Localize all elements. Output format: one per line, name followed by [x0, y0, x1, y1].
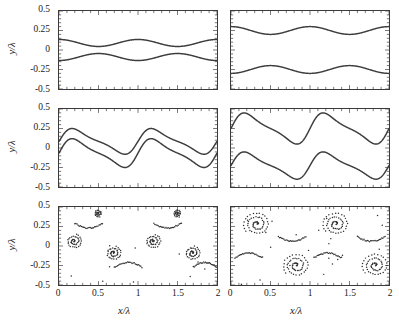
axis-ticks: [231, 109, 389, 187]
braid-filament: [74, 223, 103, 229]
y-tick-label: -0.5: [35, 85, 50, 95]
stray-particles: [71, 245, 206, 283]
lower-interface: [231, 152, 389, 179]
y-tick-label: 0: [45, 143, 50, 153]
x-tick-label: 1.5: [172, 289, 184, 299]
vortex-spiral: [186, 245, 201, 260]
x-tick-label: 1: [136, 289, 141, 299]
axis-ticks: [59, 109, 217, 187]
panel-row2-right: [230, 108, 390, 188]
x-tick-label: 0.5: [92, 289, 104, 299]
x-tick-labels-right: 00.511.52: [230, 289, 390, 302]
braid-filament: [193, 261, 217, 268]
plot-row1-right: [231, 11, 389, 89]
vortex-spiral: [95, 210, 102, 218]
plot-row3-left: [59, 207, 217, 285]
plot-row2-left: [59, 109, 217, 187]
x-tick-label: 2: [216, 289, 221, 299]
vortex-spiral: [361, 253, 387, 275]
panel-row1-right: [230, 10, 390, 90]
y-axis-title-row2: y/λ: [6, 127, 17, 167]
y-tick-label: -0.25: [30, 65, 50, 75]
vortex-spiral: [283, 254, 309, 276]
panel-row2-left: [58, 108, 218, 188]
x-tick-label: 1: [308, 289, 313, 299]
x-axis-title-left: x/λ: [118, 305, 130, 316]
y-tick-label: 0: [45, 45, 50, 55]
vortex-spiral: [67, 233, 82, 248]
x-tick-label: 0.5: [264, 289, 276, 299]
y-tick-label: 0.25: [33, 123, 50, 133]
braid-filament: [114, 261, 143, 268]
x-tick-labels-left: 00.511.52: [58, 289, 218, 302]
upper-interface: [231, 113, 389, 144]
braid-filament: [313, 252, 342, 259]
lower-interface: [59, 139, 217, 168]
y-axis-title-row3: y/λ: [6, 225, 17, 265]
vortex-spiral: [146, 234, 161, 248]
vortex-spiral: [173, 209, 181, 217]
y-tick-label: 0.25: [33, 25, 50, 35]
lower-interface: [231, 66, 389, 74]
axis-ticks: [59, 207, 217, 285]
y-tick-label: 0.5: [38, 5, 50, 15]
panel-row1-left: [58, 10, 218, 90]
vortex-spiral: [322, 212, 348, 233]
stray-particles: [241, 207, 383, 285]
braid-filament: [278, 236, 307, 242]
x-tick-label: 1.5: [344, 289, 356, 299]
plot-row1-left: [59, 11, 217, 89]
figure-root: 0.50.250-0.25-0.5 y/λ 0.50.250-0.25-0.5 …: [0, 0, 399, 330]
y-tick-label: 0: [45, 241, 50, 251]
lower-interface: [59, 54, 217, 61]
x-tick-label: 0: [56, 289, 61, 299]
upper-interface: [231, 27, 389, 35]
plot-row3-right: [231, 207, 389, 285]
plot-row2-right: [231, 109, 389, 187]
panel-row3-right: [230, 206, 390, 286]
x-axis-title-right: x/λ: [290, 305, 302, 316]
vortex-spiral: [107, 245, 122, 259]
upper-interface: [59, 39, 217, 46]
axis-ticks: [59, 11, 217, 89]
braid-filament: [153, 222, 182, 229]
braid-filament: [357, 235, 386, 242]
y-tick-label: -0.25: [30, 261, 50, 271]
y-tick-label: -0.5: [35, 183, 50, 193]
y-tick-label: 0.5: [38, 103, 50, 113]
vortex-spiral: [243, 213, 269, 234]
panel-row3-left: [58, 206, 218, 286]
x-tick-label: 0: [228, 289, 233, 299]
y-tick-label: -0.5: [35, 281, 50, 291]
x-tick-label: 2: [388, 289, 393, 299]
y-axis-title-row1: y/λ: [6, 29, 17, 69]
y-tick-label: -0.25: [30, 163, 50, 173]
braid-filament: [234, 252, 263, 259]
axis-ticks: [231, 11, 389, 89]
y-tick-label: 0.25: [33, 221, 50, 231]
y-tick-label: 0.5: [38, 201, 50, 211]
upper-interface: [59, 129, 217, 155]
